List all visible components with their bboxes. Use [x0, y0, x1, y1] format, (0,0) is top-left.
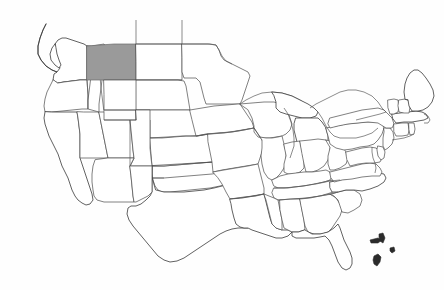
usa-outline-map [0, 0, 444, 290]
state-vermont [388, 99, 399, 114]
map-figure: Outline map of the contiguous United Sta… [0, 0, 444, 290]
state-north-dakota [136, 44, 182, 80]
state-wyoming [104, 80, 136, 110]
state-south-dakota [136, 80, 190, 110]
state-arizona [92, 158, 134, 202]
state-oregon [44, 80, 88, 112]
state-montana[interactable] [87, 44, 136, 80]
state-kansas [150, 134, 213, 166]
state-connecticut [394, 123, 409, 136]
state-rhode-island [409, 123, 415, 135]
